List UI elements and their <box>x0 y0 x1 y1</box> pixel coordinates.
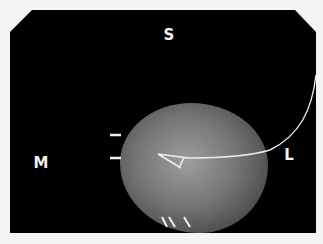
localization-wire <box>188 75 316 158</box>
edge-marker-clip <box>162 217 167 227</box>
edge-marker-clip <box>184 217 190 227</box>
medial-label: M <box>34 156 49 171</box>
superior-label: S <box>164 28 175 43</box>
lateral-label: L <box>284 148 294 163</box>
radiograph-overlay <box>0 0 323 244</box>
edge-marker-clip <box>169 217 175 227</box>
wire-hook <box>158 154 188 168</box>
